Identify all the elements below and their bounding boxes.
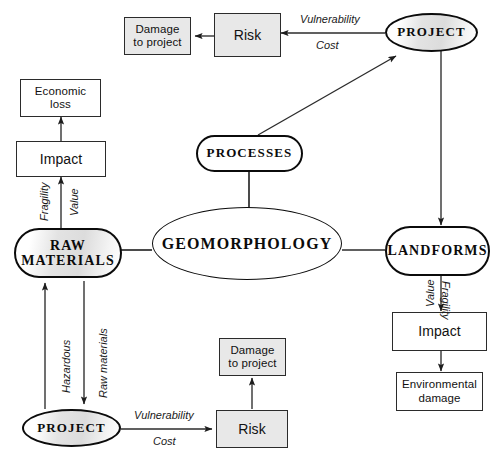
node-project-bottom[interactable]: PROJECT xyxy=(22,409,121,447)
edge-label-value-left: Value xyxy=(68,188,80,216)
node-landforms[interactable]: LANDFORMS xyxy=(385,226,490,276)
edge-label-value-right: Value xyxy=(424,279,436,307)
node-label-line2: MATERIALS xyxy=(21,253,115,268)
diagram-canvas: Damage to project Risk PROJECT Economic … xyxy=(0,0,497,453)
node-processes[interactable]: PROCESSES xyxy=(196,135,303,172)
edge-label-vulnerability-top: Vulnerability xyxy=(300,13,360,25)
node-label-line2: to project xyxy=(133,36,181,49)
node-label-line2: to project xyxy=(228,357,276,370)
edge-label-fragility-left: Fragility xyxy=(38,182,50,221)
node-damage-to-project-bottom[interactable]: Damage to project xyxy=(219,338,286,376)
node-damage-to-project-top[interactable]: Damage to project xyxy=(124,17,191,55)
node-label: Risk xyxy=(238,421,266,437)
node-label: LANDFORMS xyxy=(387,243,487,258)
node-label: PROJECT xyxy=(397,25,465,39)
node-project-top[interactable]: PROJECT xyxy=(385,13,478,52)
edge-label-cost-bottom: Cost xyxy=(153,435,176,447)
node-label-line2: loss xyxy=(50,98,71,111)
node-risk-top[interactable]: Risk xyxy=(214,13,281,57)
node-label-line1: Damage xyxy=(230,344,274,357)
node-environmental-damage[interactable]: Environmental damage xyxy=(396,372,483,411)
node-label: GEOMORPHOLOGY xyxy=(162,235,333,252)
edge-label-hazardous: Hazardous xyxy=(60,340,72,393)
node-raw-materials[interactable]: RAW MATERIALS xyxy=(14,228,122,278)
node-label: Impact xyxy=(418,323,461,339)
node-label-line2: damage xyxy=(418,392,460,405)
node-label: PROJECT xyxy=(37,421,105,435)
edge-label-vulnerability-bottom: Vulnerability xyxy=(134,409,194,421)
node-risk-bottom[interactable]: Risk xyxy=(216,410,288,448)
edge-label-cost-top: Cost xyxy=(316,39,339,51)
node-label: Risk xyxy=(234,27,262,43)
node-label-line1: Economic xyxy=(35,85,86,98)
node-label: Impact xyxy=(40,151,83,167)
edge-processes-to-project-top xyxy=(258,56,396,135)
node-geomorphology[interactable]: GEOMORPHOLOGY xyxy=(152,207,342,280)
node-label-line1: RAW xyxy=(50,238,86,253)
edge-label-fragility-right: Fragility xyxy=(440,281,452,320)
node-label-line1: Damage xyxy=(135,23,179,36)
node-economic-loss[interactable]: Economic loss xyxy=(20,79,101,117)
node-label-line1: Environmental xyxy=(402,378,477,391)
node-impact-left[interactable]: Impact xyxy=(16,141,106,177)
edge-label-raw-materials-flow: Raw materials xyxy=(97,328,109,398)
node-label: PROCESSES xyxy=(207,146,293,160)
